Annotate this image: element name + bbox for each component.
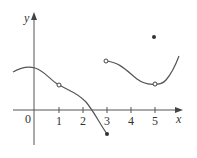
x-axis-label: x [175,112,182,126]
y-axis-label: y [23,11,30,25]
curve-right [106,56,179,84]
tick-label-5: 5 [152,114,158,128]
tick-label-2: 2 [80,114,86,128]
open-circle-x5 [153,82,157,86]
tick-label-4: 4 [128,114,134,128]
open-circle-x3 [104,59,108,63]
filled-dot-x5 [152,35,156,39]
y-axis-arrow-icon [31,12,37,20]
origin-label: 0 [25,112,31,126]
tick-label-1: 1 [56,114,62,128]
function-graph: y x 0 1 2 3 4 5 [0,0,197,158]
filled-dot-x3 [105,132,109,136]
open-circle-x1 [57,83,61,87]
tick-label-3: 3 [104,114,110,128]
